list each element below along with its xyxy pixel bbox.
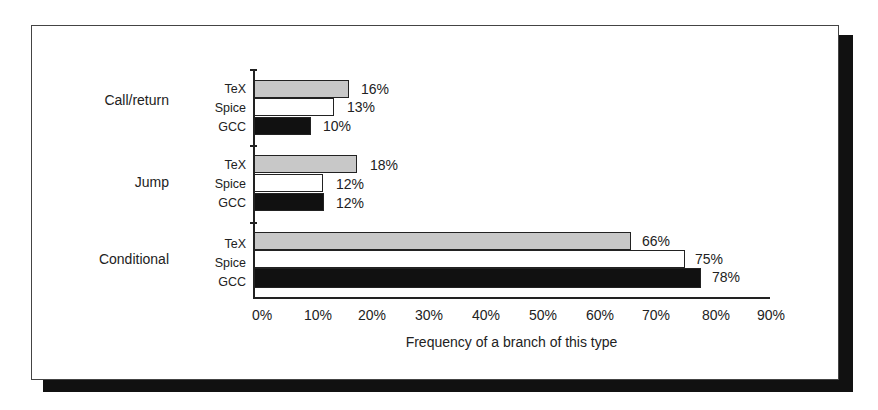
y-axis-tick	[250, 145, 257, 147]
value-label: 75%	[695, 250, 723, 268]
bar-jump-tex	[254, 155, 357, 173]
x-tick-label: 30%	[399, 307, 459, 323]
series-label-spice: Spice	[196, 254, 246, 273]
value-label: 78%	[712, 268, 740, 286]
series-label-spice: Spice	[196, 99, 246, 118]
category-label-jump: Jump	[29, 174, 169, 190]
series-label-tex: TeX	[196, 156, 246, 175]
x-tick-label: 40%	[456, 307, 516, 323]
bar-jump-spice	[254, 174, 323, 192]
x-axis-title: Frequency of a branch of this type	[253, 334, 770, 350]
series-label-spice: Spice	[196, 175, 246, 194]
bar-call-return-tex	[254, 80, 349, 98]
value-label: 66%	[642, 232, 670, 250]
bar-conditional-tex	[254, 232, 631, 250]
value-label: 18%	[370, 156, 398, 174]
x-axis	[253, 297, 770, 299]
value-label: 12%	[336, 175, 364, 193]
value-label: 12%	[336, 194, 364, 212]
x-tick-label: 50%	[513, 307, 573, 323]
chart-frame	[31, 25, 839, 380]
series-label-tex: TeX	[196, 80, 246, 99]
series-label-gcc: GCC	[196, 194, 246, 213]
x-tick-label: 70%	[626, 307, 686, 323]
series-label-tex: TeX	[196, 235, 246, 254]
x-tick-label: 60%	[570, 307, 630, 323]
bar-call-return-gcc	[254, 117, 311, 135]
value-label: 10%	[323, 117, 351, 135]
category-label-conditional: Conditional	[29, 251, 169, 267]
x-tick-label: 80%	[686, 307, 746, 323]
value-label: 13%	[347, 98, 375, 116]
x-tick-label: 0%	[232, 307, 292, 323]
category-label-call-return: Call/return	[29, 92, 169, 108]
bar-conditional-spice	[254, 250, 685, 268]
y-axis-tick	[250, 222, 257, 224]
y-axis-tick	[250, 69, 257, 71]
bar-conditional-gcc	[254, 268, 701, 288]
x-tick-label: 10%	[288, 307, 348, 323]
x-tick-label: 20%	[342, 307, 402, 323]
bar-jump-gcc	[254, 193, 324, 211]
series-label-gcc: GCC	[196, 273, 246, 292]
bar-call-return-spice	[254, 98, 334, 116]
value-label: 16%	[361, 80, 389, 98]
x-tick-label: 90%	[741, 307, 801, 323]
series-label-gcc: GCC	[196, 118, 246, 137]
